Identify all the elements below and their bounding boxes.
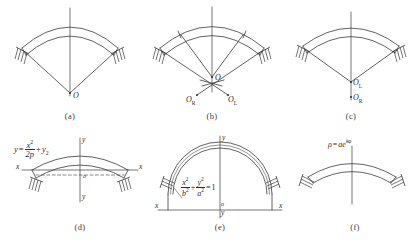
center-point-ol-c xyxy=(350,81,352,83)
center-sub-or-b: R xyxy=(192,100,196,106)
radius-crown-right-b xyxy=(212,35,243,77)
caption-e: (e) xyxy=(200,222,240,232)
center-label-o-b: O xyxy=(215,73,221,82)
support-hatch-right-a xyxy=(111,47,125,64)
axis-label-x-right-d: x xyxy=(139,162,142,171)
center-label-ol-b: OL xyxy=(228,95,237,106)
center-sub-ol-b: L xyxy=(234,100,237,106)
panel-e-drawing xyxy=(150,132,290,222)
center-label-o-a: O xyxy=(73,91,79,100)
radius-right-a xyxy=(70,51,116,93)
equation-e-t2-den-sup: 2 xyxy=(201,187,204,193)
support-hatch-right-c xyxy=(392,45,406,62)
equation-f-exp-phi: φ xyxy=(348,138,351,144)
caption-f: (f) xyxy=(335,222,375,232)
equation-e-t2-den: a2 xyxy=(196,188,205,198)
panel-a-circular-arch: O xyxy=(0,0,140,110)
caption-c: (c) xyxy=(331,111,371,121)
equation-d-plus: + xyxy=(35,144,42,154)
center-label-ol-c: OL xyxy=(353,78,362,89)
panel-d-parabolic-arch: y= x2 2p +y2 x x y y o xyxy=(0,132,150,222)
origin-label-d: o xyxy=(83,173,86,179)
equation-e-term2: y2 a2 xyxy=(196,177,205,198)
axis-label-y-bottom-e: y xyxy=(221,208,224,217)
panel-b-drawing xyxy=(140,0,285,110)
support-hatch-right-b xyxy=(257,47,271,64)
panel-c-two-centered-arch: OL OR xyxy=(283,0,419,110)
equation-d-fraction: x2 2p xyxy=(25,139,36,160)
support-hatch-left-b xyxy=(153,47,167,64)
center-label-or-c: OR xyxy=(353,93,362,104)
center-sub-or-c: R xyxy=(359,98,363,104)
axis-label-x-right-e: x xyxy=(279,201,282,210)
support-hatch-left-a xyxy=(15,47,29,64)
equation-d: y= x2 2p +y2 xyxy=(14,140,49,161)
caption-b: (b) xyxy=(192,111,232,121)
panel-f-catenary-arch: ρ=aekφ xyxy=(290,132,419,222)
caption-d: (d) xyxy=(60,222,100,232)
arch-right-end-d xyxy=(124,170,128,178)
axis-label-y-top-d: y xyxy=(82,135,85,144)
equation-d-num-sup: 2 xyxy=(30,139,33,145)
arch-axis-figure-sheet: O (a) xyxy=(0,0,419,243)
equation-d-denominator: 2p xyxy=(25,150,36,159)
equation-e-t1-den-sup: 2 xyxy=(186,187,189,193)
origin-label-e: o xyxy=(221,201,224,207)
center-point-o-a xyxy=(69,92,71,94)
equation-f: ρ=aekφ xyxy=(328,139,351,149)
axis-label-x-left-d: x xyxy=(16,162,19,171)
radius-crown-left-b xyxy=(181,35,212,77)
panel-f-drawing xyxy=(290,132,419,222)
support-hatch-right-d xyxy=(117,177,131,192)
equation-e-t2-num-sup: 2 xyxy=(201,176,204,182)
radius-left-a xyxy=(24,51,70,93)
equation-e-term1: x2 b2 xyxy=(181,177,190,198)
center-point-or-c xyxy=(350,96,352,98)
arch-left-end-d xyxy=(32,170,36,178)
axis-label-y-bottom-d: y xyxy=(82,192,85,201)
equation-e-rhs: 1 xyxy=(211,183,215,192)
panel-a-drawing xyxy=(0,0,140,110)
equation-e: x2 b2 + y2 a2 =1 xyxy=(181,178,215,199)
equation-d-tail-sub: 2 xyxy=(46,150,49,156)
caption-a: (a) xyxy=(50,111,90,121)
support-hatch-left-d xyxy=(29,177,43,192)
support-hatch-right-f xyxy=(390,174,405,188)
axis-label-y-top-e: y xyxy=(222,133,225,142)
equation-d-eq: = xyxy=(18,144,25,154)
panel-b-three-centered-arch: O OR OL xyxy=(140,0,285,110)
axis-label-x-left-e: x xyxy=(155,201,158,210)
center-point-or-b xyxy=(196,94,198,96)
support-hatch-left-c xyxy=(296,45,310,62)
center-label-or-b: OR xyxy=(186,95,195,106)
center-sub-ol-c: L xyxy=(359,83,362,89)
panel-e-elliptical-arch: x2 b2 + y2 a2 =1 x x y y o xyxy=(150,132,290,222)
equation-e-t1-num-sup: 2 xyxy=(186,176,189,182)
panel-c-drawing xyxy=(283,0,419,110)
equation-e-t1-den: b2 xyxy=(181,188,190,198)
center-point-o-b xyxy=(211,76,213,78)
equation-f-rhs: ae xyxy=(338,140,346,149)
support-hatch-left-f xyxy=(299,174,314,188)
radius-or-b xyxy=(197,51,262,95)
radius-left-c xyxy=(305,49,351,82)
